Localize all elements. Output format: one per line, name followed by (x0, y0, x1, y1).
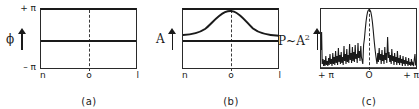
panel-c-caption: (c) (362, 96, 377, 107)
panel-a-ytick-bottom: – π (23, 62, 36, 72)
panel-a-phase-trace (41, 40, 136, 42)
panel-a-xtick-center: o (86, 70, 92, 80)
panel-b-y-axis-label: A (156, 28, 177, 50)
panel-c-xtick-right: + π (403, 70, 419, 80)
panel-c-y-axis-label: P~A2 (278, 28, 322, 50)
panel-a-ytick-top: + π (20, 3, 36, 13)
panel-b-xtick-center: o (228, 70, 234, 80)
panel-c-center-line (369, 9, 370, 70)
power-symbol-base: P~A (278, 34, 305, 48)
panel-c-xtick-center: O (365, 70, 372, 80)
panel-c-plot-box (320, 8, 417, 69)
up-arrow-icon (17, 28, 26, 50)
panel-b-caption: (b) (223, 96, 239, 107)
panel-b-xtick-left: n (182, 70, 188, 80)
amplitude-symbol: A (156, 34, 165, 45)
panel-a-y-axis-label: ϕ (6, 28, 26, 50)
panel-b-baseline (183, 40, 278, 42)
panel-c-xtick-left: + π (318, 70, 334, 80)
phi-symbol: ϕ (6, 34, 14, 45)
power-symbol-exponent: 2 (305, 33, 310, 42)
panel-a: ϕ + π – π n o l (a) (0, 0, 140, 109)
up-arrow-icon (168, 28, 177, 50)
power-symbol: P~A2 (278, 32, 310, 47)
panel-c: P~A2 + π O + π (c) (280, 0, 418, 109)
panel-a-xtick-right: l (136, 70, 139, 80)
panel-a-xtick-left: n (40, 70, 46, 80)
panel-b: A n o l (b) (140, 0, 280, 109)
panel-a-plot-box (40, 8, 137, 69)
panel-a-caption: (a) (81, 96, 96, 107)
panel-b-plot-box (182, 8, 279, 69)
